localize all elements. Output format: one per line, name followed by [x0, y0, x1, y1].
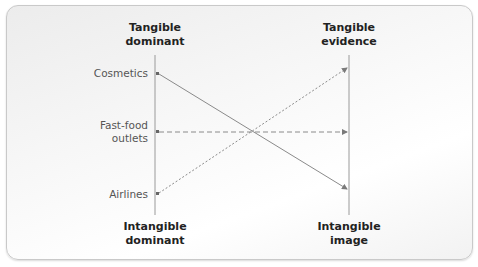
airlines-line [159, 68, 347, 193]
airlines-marker [156, 192, 159, 195]
diagram-lines [0, 0, 478, 267]
cosmetics-marker [156, 72, 159, 75]
fast-food-marker [156, 130, 159, 133]
